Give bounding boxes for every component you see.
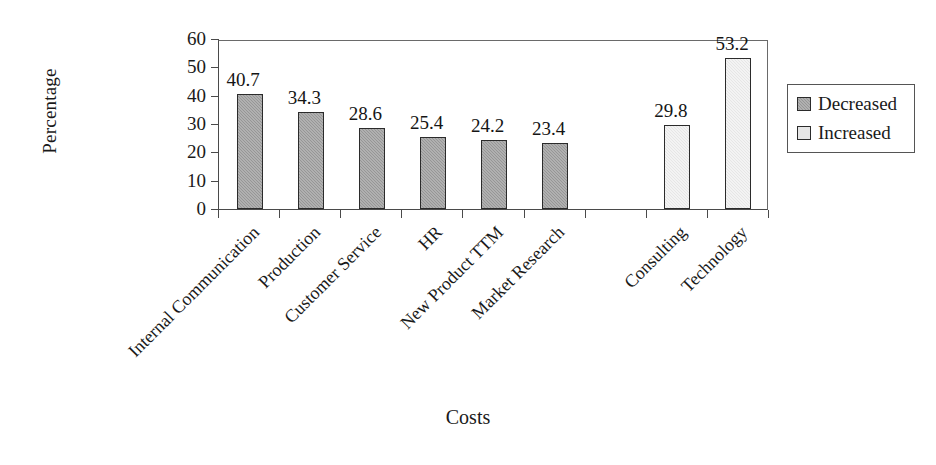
bar[interactable] <box>664 125 690 209</box>
bar-slot <box>280 41 341 209</box>
bar[interactable] <box>725 58 751 209</box>
bar-value-label: 53.2 <box>715 33 748 55</box>
bar-value-label: 25.4 <box>410 112 443 134</box>
bar[interactable] <box>298 112 324 209</box>
y-axis-tick-label: 20 <box>172 141 206 163</box>
legend-item-decreased[interactable]: Decreased <box>797 94 897 113</box>
bar-value-label: 34.3 <box>288 87 321 109</box>
bar[interactable] <box>420 137 446 209</box>
legend: Decreased Increased <box>787 84 915 153</box>
x-axis-tick <box>340 210 341 218</box>
bar[interactable] <box>542 143 568 209</box>
y-axis-title: Percentage <box>39 21 61 201</box>
x-axis-tick <box>646 210 647 218</box>
bar-value-label: 24.2 <box>471 115 504 137</box>
y-axis-tick-label: 0 <box>172 198 206 220</box>
bar[interactable] <box>237 94 263 209</box>
y-axis-tick-label: 10 <box>172 170 206 192</box>
legend-item-increased[interactable]: Increased <box>797 123 891 142</box>
legend-label-increased: Increased <box>818 123 891 142</box>
bar-value-label: 40.7 <box>227 69 260 91</box>
x-axis-tick <box>279 210 280 218</box>
x-axis-tick <box>585 210 586 218</box>
bar-slot <box>219 41 280 209</box>
bar-value-label: 28.6 <box>349 103 382 125</box>
bar-value-label: 29.8 <box>654 100 687 122</box>
bar-value-label: 23.4 <box>532 118 565 140</box>
legend-label-decreased: Decreased <box>818 94 897 113</box>
x-axis-tick <box>218 210 219 218</box>
x-axis-tick <box>462 210 463 218</box>
bar[interactable] <box>359 128 385 209</box>
bar-slot <box>341 41 402 209</box>
x-axis-tick <box>401 210 402 218</box>
y-axis-tick-label: 60 <box>172 28 206 50</box>
x-axis-tick <box>524 210 525 218</box>
x-axis-tick <box>768 210 769 218</box>
x-axis-title: Costs <box>0 406 936 429</box>
y-axis-tick-label: 30 <box>172 113 206 135</box>
legend-swatch-decreased-icon <box>797 97 811 111</box>
x-axis-tick <box>707 210 708 218</box>
legend-swatch-increased-icon <box>797 126 811 140</box>
bar[interactable] <box>481 140 507 209</box>
y-axis-tick-label: 40 <box>172 85 206 107</box>
bar-chart: Percentage 6050403020100 40.734.328.625.… <box>0 0 936 465</box>
bar-slot <box>647 41 708 209</box>
bar-slot <box>708 41 769 209</box>
y-axis-tick-label: 50 <box>172 56 206 78</box>
